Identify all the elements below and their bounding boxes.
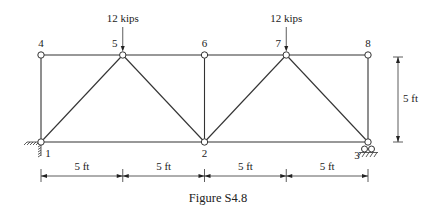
joint-3 <box>365 139 371 145</box>
arrow-left-icon <box>41 174 47 178</box>
arrow-down-icon <box>396 136 400 142</box>
joint-7 <box>283 52 289 58</box>
members <box>41 55 368 142</box>
member-7-3 <box>286 55 368 142</box>
member-1-5 <box>41 55 123 142</box>
node-label-5: 5 <box>112 37 118 49</box>
arrow-right-icon <box>280 174 286 178</box>
node-label-4: 4 <box>38 37 44 49</box>
load-arrowhead-icon <box>121 46 125 52</box>
arrow-right-icon <box>199 174 205 178</box>
joint-4 <box>38 52 44 58</box>
vertical-dimension: 5 ft <box>393 57 418 142</box>
node-label-7: 7 <box>276 37 282 49</box>
joint-6 <box>201 52 207 58</box>
joint-2 <box>201 139 207 145</box>
dimension-label: 5 ft <box>156 160 171 172</box>
member-5-2 <box>123 55 205 142</box>
arrow-up-icon <box>396 57 400 63</box>
node-label-3: 3 <box>354 149 360 161</box>
load-label: 12 kips <box>270 12 302 24</box>
member-2-7 <box>205 55 287 142</box>
node-label-8: 8 <box>365 37 371 49</box>
node-label-6: 6 <box>202 37 208 49</box>
roller-support <box>358 146 378 157</box>
figure-caption: Figure S4.8 <box>189 191 247 205</box>
arrow-right-icon <box>117 174 123 178</box>
node-label-2: 2 <box>202 147 208 159</box>
horizontal-dimensions: 5 ft5 ft5 ft5 ft <box>41 160 368 182</box>
load-arrowhead-icon <box>284 46 288 52</box>
arrow-left-icon <box>205 174 211 178</box>
dimension-label: 5 ft <box>403 92 418 104</box>
arrow-left-icon <box>286 174 292 178</box>
dimension-label: 5 ft <box>74 160 89 172</box>
arrow-right-icon <box>362 174 368 178</box>
joint-8 <box>365 52 371 58</box>
load-label: 12 kips <box>107 12 139 24</box>
dimension-label: 5 ft <box>238 160 253 172</box>
dimensions: 5 ft5 ft5 ft5 ft5 ft <box>41 57 418 182</box>
truss-diagram: 12345678 12 kips12 kips 5 ft5 ft5 ft5 ft… <box>0 0 437 214</box>
node-label-1: 1 <box>45 147 51 159</box>
joint-5 <box>120 52 126 58</box>
dimension-label: 5 ft <box>320 160 335 172</box>
roller-wheel <box>362 146 368 152</box>
joint-1 <box>38 139 44 145</box>
roller-wheel <box>369 146 375 152</box>
arrow-left-icon <box>123 174 129 178</box>
